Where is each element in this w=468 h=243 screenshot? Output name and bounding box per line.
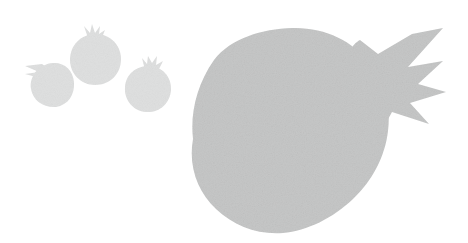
small-pomegranate-top-body [70, 34, 121, 85]
illustration-canvas: Pomegranate Silhouettes [0, 0, 468, 243]
small-pomegranate-right-body [125, 66, 171, 112]
pomegranate-illustration-svg [0, 0, 468, 243]
